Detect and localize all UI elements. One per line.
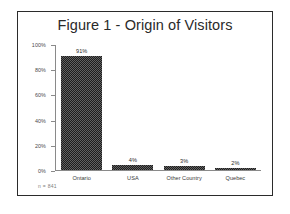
bar-ontario [61,56,102,170]
y-tick-label: 0% [38,168,46,174]
category-label: Other Country [159,175,210,181]
y-tick-label: 20% [35,143,46,149]
bar-group-ontario: 91% Ontario [56,45,107,170]
bar-group-quebec: 2% Quebec [210,45,261,170]
y-tick-label: 40% [35,118,46,124]
bar-quebec [215,168,256,171]
bar-usa [112,165,153,170]
bar-value-label: 4% [107,157,158,163]
category-label: USA [107,175,158,181]
plot-area: 100% 80% 60% 40% 20% 0% 91% Ontario [55,45,261,171]
bar-value-label: 91% [56,48,107,54]
y-tick-label: 100% [32,42,46,48]
bar-group-other-country: 3% Other Country [159,45,210,170]
y-tick-label: 80% [35,67,46,73]
chart-title: Figure 1 - Origin of Visitors [18,17,272,33]
category-label: Ontario [56,175,107,181]
sample-size-footnote: n = 841 [38,183,57,189]
bar-value-label: 2% [210,160,261,166]
bar-other-country [164,166,205,170]
x-axis-line [55,170,261,171]
figure-frame: Figure 1 - Origin of Visitors 100% 80% 6… [17,11,273,196]
bar-group-usa: 4% USA [107,45,158,170]
bar-value-label: 3% [159,158,210,164]
y-tick-label: 60% [35,92,46,98]
category-label: Quebec [210,175,261,181]
bar-series: 91% Ontario 4% USA 3% Other Country 2% Q… [56,45,261,170]
